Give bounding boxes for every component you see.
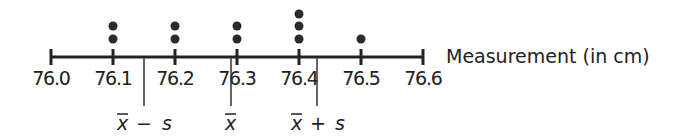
mean-minus-sd-label: x − s	[116, 112, 172, 134]
mean-symbol: x	[116, 112, 129, 134]
x-axis-tick-labels: 76.0 76.1 76.2 76.3 76.4 76.5 76.6	[32, 67, 442, 89]
plus-operator: +	[310, 112, 326, 134]
dot-76-2	[171, 35, 180, 44]
dot-76-2	[171, 22, 180, 31]
sd-symbol: s	[335, 112, 345, 134]
dot-plot: 76.0 76.1 76.2 76.3 76.4 76.5 76.6 Measu…	[0, 0, 678, 137]
dot-76-4	[295, 22, 304, 31]
mean-symbol: x	[290, 112, 303, 134]
tick-label: 76.2	[156, 67, 194, 89]
dot-76-1	[109, 35, 118, 44]
data-dots	[109, 10, 366, 44]
dot-76-1	[109, 22, 118, 31]
tick-label: 76.0	[32, 67, 70, 89]
tick-label: 76.5	[342, 67, 380, 89]
mean-label: x	[224, 112, 237, 134]
sd-symbol: s	[162, 112, 172, 134]
tick-label: 76.3	[218, 67, 256, 89]
x-axis-title: Measurement (in cm)	[446, 45, 650, 67]
dot-76-4	[295, 10, 304, 19]
minus-operator: −	[136, 112, 152, 134]
dot-76-5	[357, 35, 366, 44]
tick-label: 76.1	[94, 67, 132, 89]
tick-label: 76.6	[404, 67, 442, 89]
mean-symbol: x	[224, 112, 237, 134]
mean-plus-sd-label: x + s	[290, 112, 345, 134]
dot-76-3	[233, 35, 242, 44]
tick-label: 76.4	[280, 67, 319, 89]
dot-76-4	[295, 35, 304, 44]
dot-76-3	[233, 22, 242, 31]
